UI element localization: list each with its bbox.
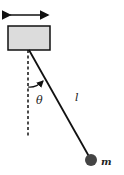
angle-label: θ bbox=[36, 94, 43, 107]
length-label: l bbox=[75, 91, 79, 104]
pendulum-bob bbox=[85, 154, 97, 166]
pendulum-diagram: θ l m bbox=[0, 0, 124, 175]
angle-arc bbox=[28, 81, 43, 87]
cart-box bbox=[8, 26, 50, 50]
mass-label: m bbox=[101, 156, 112, 167]
